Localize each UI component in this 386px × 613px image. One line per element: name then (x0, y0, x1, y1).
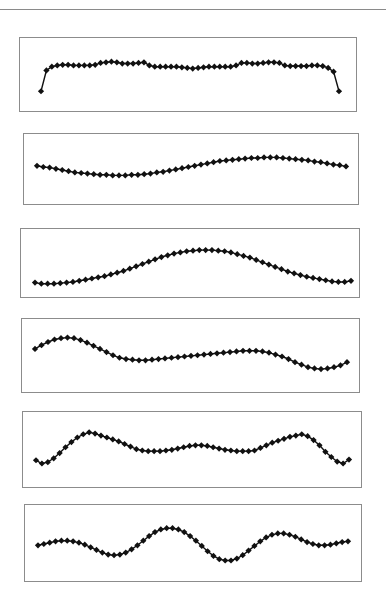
diamond-marker (72, 169, 78, 175)
diamond-marker (103, 172, 109, 178)
diamond-marker (158, 254, 164, 260)
diamond-marker (168, 64, 174, 70)
diamond-marker (114, 59, 120, 65)
diamond-marker (222, 557, 228, 563)
diamond-marker (80, 431, 86, 437)
diamond-marker (246, 348, 252, 354)
line-series-3 (21, 229, 361, 299)
diamond-marker (116, 438, 122, 444)
diamond-marker (181, 353, 187, 359)
diamond-marker (173, 166, 179, 172)
diamond-marker (97, 346, 103, 352)
diamond-marker (179, 165, 185, 171)
diamond-marker (147, 170, 153, 176)
diamond-marker (292, 534, 298, 540)
diamond-marker (321, 542, 327, 548)
diamond-marker (311, 158, 317, 164)
diamond-marker (70, 62, 76, 68)
diamond-marker (175, 354, 181, 360)
diamond-marker (236, 156, 242, 162)
diamond-marker (282, 62, 288, 68)
diamond-marker (221, 248, 227, 254)
diamond-marker (339, 539, 345, 545)
diamond-marker (304, 274, 310, 280)
diamond-marker (214, 350, 220, 356)
diamond-marker (52, 538, 58, 544)
diamond-marker (166, 167, 172, 173)
diamond-marker (130, 60, 136, 66)
diamond-marker (259, 259, 265, 265)
diamond-marker (76, 62, 82, 68)
diamond-marker (228, 447, 234, 453)
diamond-marker (281, 436, 287, 442)
diamond-marker (251, 447, 257, 453)
diamond-marker (82, 277, 88, 283)
diamond-marker (342, 279, 348, 285)
diamond-marker (287, 63, 293, 69)
diamond-marker (305, 157, 311, 163)
diamond-marker (238, 60, 244, 66)
diamond-marker (303, 63, 309, 69)
diamond-marker (323, 277, 329, 283)
diamond-marker (154, 169, 160, 175)
diamond-marker (337, 362, 343, 368)
diamond-marker (175, 445, 181, 451)
diamond-marker (99, 549, 105, 555)
diamond-marker (198, 161, 204, 167)
diamond-marker (228, 557, 234, 563)
diamond-marker (206, 64, 212, 70)
diamond-marker (127, 443, 133, 449)
diamond-marker (32, 346, 38, 352)
diamond-marker (260, 60, 266, 66)
diamond-marker (84, 170, 90, 176)
diamond-marker (192, 163, 198, 169)
diamond-marker (329, 278, 335, 284)
diamond-marker (133, 263, 139, 269)
diamond-marker (233, 348, 239, 354)
diamond-marker (84, 340, 90, 346)
diamond-marker (76, 540, 82, 546)
diamond-marker (333, 540, 339, 546)
diamond-marker (105, 551, 111, 557)
diamond-marker (128, 172, 134, 178)
diamond-marker (119, 60, 125, 66)
diamond-marker (233, 62, 239, 68)
diamond-marker (209, 247, 215, 253)
diamond-marker (234, 251, 240, 257)
diamond-marker (278, 266, 284, 272)
diamond-marker (271, 59, 277, 65)
diamond-marker (185, 164, 191, 170)
diamond-marker (215, 248, 221, 254)
diamond-marker (133, 446, 139, 452)
diamond-marker (97, 60, 103, 66)
line-chart-panel-3 (20, 228, 360, 298)
diamond-marker (310, 541, 316, 547)
diamond-marker (201, 351, 207, 357)
diamond-marker (184, 65, 190, 71)
diamond-marker (299, 431, 305, 437)
diamond-marker (245, 448, 251, 454)
line-series-4 (22, 319, 361, 394)
diamond-marker (152, 64, 158, 70)
diamond-marker (275, 438, 281, 444)
diamond-marker (194, 352, 200, 358)
diamond-marker (298, 536, 304, 542)
diamond-marker (129, 357, 135, 363)
diamond-marker (53, 166, 59, 172)
diamond-marker (217, 158, 223, 164)
diamond-marker (139, 447, 145, 453)
diamond-marker (141, 59, 147, 65)
line-chart-panel-5 (22, 411, 362, 488)
diamond-marker (274, 154, 280, 160)
diamond-marker (136, 357, 142, 363)
diamond-marker (76, 278, 82, 284)
diamond-marker (247, 255, 253, 261)
diamond-marker (71, 335, 77, 341)
diamond-marker (45, 339, 51, 345)
diamond-marker (298, 362, 304, 368)
diamond-marker (275, 530, 281, 536)
diamond-marker (160, 169, 166, 175)
diamond-marker (272, 351, 278, 357)
diamond-marker (269, 532, 275, 538)
line-chart-panel-4 (21, 318, 360, 393)
